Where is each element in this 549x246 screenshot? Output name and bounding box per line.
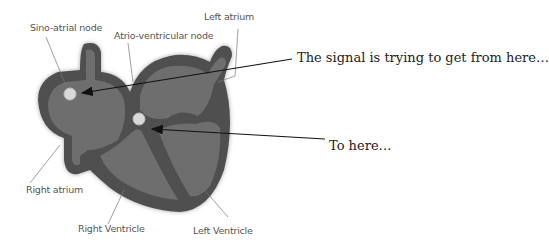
label-left-ventricle: Left Ventricle: [193, 225, 253, 236]
label-right-atrium: Right atrium: [26, 184, 83, 195]
sa-node: [64, 88, 76, 100]
annotation-to: To here…: [329, 138, 392, 153]
label-left-atrium: Left atrium: [204, 11, 254, 22]
label-av-node: Atrio-ventricular node: [114, 30, 213, 41]
av-node: [133, 113, 145, 125]
annotation-from: The signal is trying to get from here…: [297, 50, 549, 65]
label-right-ventricle: Right Ventricle: [78, 223, 145, 234]
label-sa-node: Sino-atrial node: [30, 22, 102, 33]
